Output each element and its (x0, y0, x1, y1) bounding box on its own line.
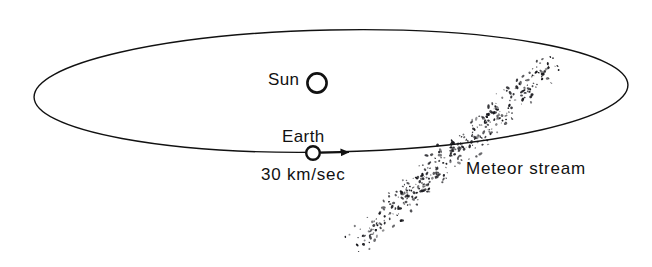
sun-label: Sun (268, 71, 299, 88)
velocity-arrow (321, 152, 349, 153)
meteor-stream-band (344, 56, 559, 252)
earth-circle (306, 146, 320, 160)
meteor-stream-diagram: Sun Earth 30 km/sec Meteor stream (0, 0, 652, 267)
diagram-canvas (0, 0, 652, 267)
orbital-speed-label: 30 km/sec (261, 166, 346, 183)
earth-label: Earth (282, 128, 325, 145)
orbit-ellipse (33, 24, 629, 158)
meteor-stream-label: Meteor stream (466, 160, 586, 177)
sun-circle (307, 73, 326, 92)
